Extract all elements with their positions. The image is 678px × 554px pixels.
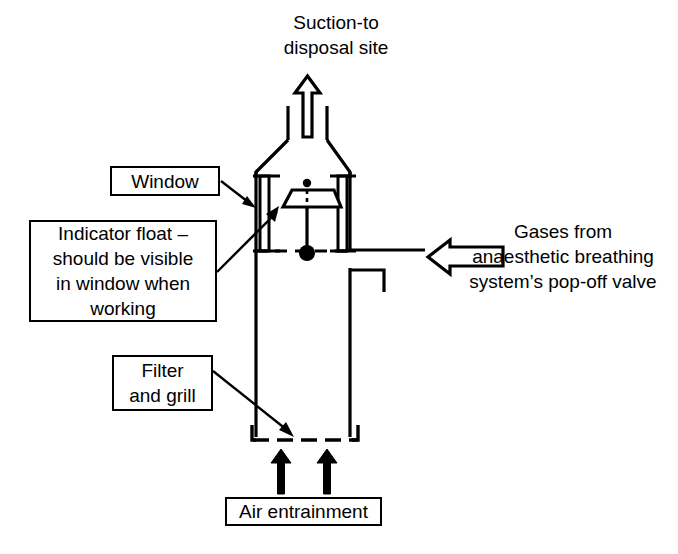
indicator-float-label-line-3: in window when bbox=[56, 271, 190, 296]
indicator-float-label-line-2: should be visible bbox=[53, 246, 193, 271]
gases-label-line-1: Gases from bbox=[514, 219, 612, 244]
suction-label-line-2: disposal site bbox=[284, 35, 389, 60]
diagram-canvas: Suction-to disposal site Window Indicato… bbox=[0, 0, 678, 554]
suction-arrow-icon bbox=[295, 76, 320, 137]
air-entrainment-label-line-1: Air entrainment bbox=[239, 499, 368, 524]
indicator-float-label-line-1: Indicator float – bbox=[58, 221, 188, 246]
air-entrainment-label: Air entrainment bbox=[225, 497, 382, 526]
air-entrainment-arrow-right-icon bbox=[317, 449, 337, 494]
window-slot-right-icon bbox=[330, 176, 356, 251]
filter-grill-label-line-1: Filter bbox=[141, 358, 183, 383]
funnel-shoulders bbox=[256, 140, 350, 178]
float-pivot-icon bbox=[299, 245, 315, 261]
air-entrainment-arrow-left-icon bbox=[271, 449, 291, 494]
gases-label: Gases from anaesthetic breathing system’… bbox=[452, 216, 674, 296]
indicator-float-label-line-4: working bbox=[90, 296, 155, 321]
suction-label-line-1: Suction-to bbox=[293, 10, 379, 35]
suction-label: Suction-to disposal site bbox=[226, 4, 446, 66]
indicator-float-label: Indicator float – should be visible in w… bbox=[29, 220, 217, 322]
gases-label-line-2: anaesthetic breathing bbox=[472, 244, 654, 269]
filter-grill-label-line-2: and grill bbox=[129, 383, 196, 408]
filter-grill-label: Filter and grill bbox=[112, 355, 213, 411]
window-label-line-1: Window bbox=[131, 169, 199, 194]
leader-window bbox=[221, 181, 256, 208]
indicator-float-icon bbox=[283, 179, 341, 261]
window-label: Window bbox=[110, 166, 220, 196]
gases-label-line-3: system’s pop-off valve bbox=[469, 269, 656, 294]
filter-grill-icon bbox=[252, 425, 358, 440]
gas-inlet-pipe bbox=[349, 250, 425, 292]
